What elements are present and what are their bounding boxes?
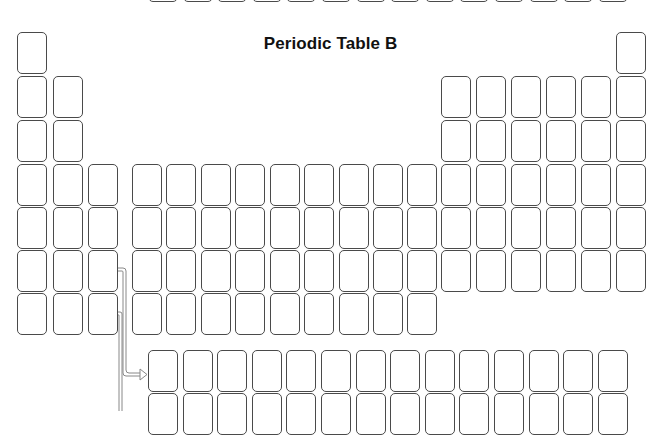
element-cell-p3-g2	[53, 120, 83, 162]
element-cell-p4-g7	[235, 164, 265, 206]
actinides-cell	[425, 393, 455, 435]
element-cell-p4-g17	[581, 164, 611, 206]
element-cell-p7-g6	[201, 293, 231, 335]
element-cell-p2-g15	[511, 76, 541, 118]
element-cell-p6-g10	[339, 250, 369, 292]
element-cell-p5-g11	[373, 207, 403, 249]
actinides-cell	[183, 393, 213, 435]
element-cell-p6-g9	[304, 250, 334, 292]
prev-table-f-block-cell	[217, 0, 247, 2]
element-cell-p3-g15	[511, 120, 541, 162]
element-cell-p7-g2	[53, 293, 83, 335]
lanthanides-cell	[598, 350, 628, 392]
actinides-cell	[494, 393, 524, 435]
prev-table-f-block-cell	[390, 0, 420, 2]
element-cell-p5-g18	[616, 207, 646, 249]
element-cell-p6-g16	[546, 250, 576, 292]
prev-table-f-block-cell	[425, 0, 455, 2]
element-cell-p4-g4	[132, 164, 162, 206]
element-cell-p3-g14	[476, 120, 506, 162]
lanthanides-cell	[252, 350, 282, 392]
element-cell-p5-g9	[304, 207, 334, 249]
element-cell-p2-g2	[53, 76, 83, 118]
element-cell-p7-g3	[88, 293, 118, 335]
actinides-cell	[252, 393, 282, 435]
lanthanides-cell	[356, 350, 386, 392]
element-cell-p7-g11	[373, 293, 403, 335]
lanthanides-cell	[425, 350, 455, 392]
actinide-arrow-icon	[118, 312, 122, 411]
element-cell-p6-g2	[53, 250, 83, 292]
element-cell-p5-g6	[201, 207, 231, 249]
prev-table-f-block-cell	[598, 0, 628, 2]
element-cell-p5-g13	[441, 207, 471, 249]
element-cell-p7-g9	[304, 293, 334, 335]
element-cell-p3-g17	[581, 120, 611, 162]
element-cell-p5-g12	[407, 207, 437, 249]
prev-table-f-block-cell	[356, 0, 386, 2]
element-cell-p7-g7	[235, 293, 265, 335]
actinides-cell	[148, 393, 178, 435]
prev-table-f-block-cell	[529, 0, 559, 2]
element-cell-p4-g8	[270, 164, 300, 206]
actinides-cell	[529, 393, 559, 435]
actinides-cell	[217, 393, 247, 435]
element-cell-p5-g2	[53, 207, 83, 249]
element-cell-p2-g1	[17, 76, 47, 118]
element-cell-p4-g16	[546, 164, 576, 206]
element-cell-p6-g15	[511, 250, 541, 292]
lanthanides-cell	[459, 350, 489, 392]
element-cell-p6-g3	[88, 250, 118, 292]
element-cell-p5-g3	[88, 207, 118, 249]
prev-table-f-block-cell	[563, 0, 593, 2]
element-cell-p4-g14	[476, 164, 506, 206]
lanthanides-cell	[494, 350, 524, 392]
element-cell-p5-g17	[581, 207, 611, 249]
element-cell-p6-g17	[581, 250, 611, 292]
element-cell-p7-g12	[407, 293, 437, 335]
element-cell-p3-g16	[546, 120, 576, 162]
element-cell-p1-g18	[616, 32, 646, 74]
element-cell-p5-g14	[476, 207, 506, 249]
element-cell-p6-g8	[270, 250, 300, 292]
element-cell-p4-g3	[88, 164, 118, 206]
element-cell-p4-g2	[53, 164, 83, 206]
element-cell-p7-g5	[166, 293, 196, 335]
element-cell-p7-g4	[132, 293, 162, 335]
lanthanides-cell	[148, 350, 178, 392]
element-cell-p2-g16	[546, 76, 576, 118]
element-cell-p4-g13	[441, 164, 471, 206]
element-cell-p5-g10	[339, 207, 369, 249]
element-cell-p4-g12	[407, 164, 437, 206]
actinides-cell	[356, 393, 386, 435]
element-cell-p7-g1	[17, 293, 47, 335]
prev-table-f-block-cell	[252, 0, 282, 2]
element-cell-p3-g13	[441, 120, 471, 162]
lanthanides-cell	[183, 350, 213, 392]
element-cell-p4-g5	[166, 164, 196, 206]
lanthanides-cell	[529, 350, 559, 392]
element-cell-p2-g14	[476, 76, 506, 118]
element-cell-p7-g8	[270, 293, 300, 335]
actinides-cell	[459, 393, 489, 435]
element-cell-p6-g11	[373, 250, 403, 292]
actinides-cell	[563, 393, 593, 435]
element-cell-p4-g18	[616, 164, 646, 206]
element-cell-p3-g1	[17, 120, 47, 162]
prev-table-f-block-cell	[183, 0, 213, 2]
element-cell-p2-g18	[616, 76, 646, 118]
actinides-cell	[390, 393, 420, 435]
actinides-cell	[321, 393, 351, 435]
element-cell-p5-g1	[17, 207, 47, 249]
prev-table-f-block-cell	[459, 0, 489, 2]
element-cell-p5-g16	[546, 207, 576, 249]
element-cell-p4-g15	[511, 164, 541, 206]
element-cell-p6-g4	[132, 250, 162, 292]
lanthanides-cell	[563, 350, 593, 392]
element-cell-p4-g6	[201, 164, 231, 206]
actinides-cell	[598, 393, 628, 435]
element-cell-p4-g9	[304, 164, 334, 206]
lanthanides-cell	[286, 350, 316, 392]
element-cell-p3-g18	[616, 120, 646, 162]
